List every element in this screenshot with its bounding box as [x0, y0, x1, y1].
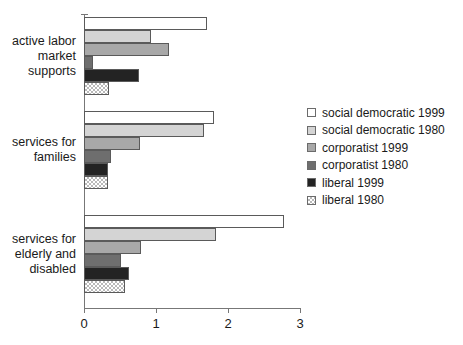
category-label-line: elderly and: [0, 247, 76, 262]
category-label-line: market: [0, 49, 76, 64]
legend-item[interactable]: liberal 1999: [307, 174, 457, 192]
legend-item-label: liberal 1999: [322, 176, 384, 190]
bar: [84, 267, 129, 280]
bar: [84, 228, 216, 241]
bar-group: [84, 111, 300, 189]
bar: [84, 56, 93, 69]
category-label: active labormarketsupports: [0, 34, 76, 79]
legend-item-label: liberal 1980: [322, 193, 384, 207]
x-axis-tick: [156, 308, 157, 313]
bar: [84, 30, 151, 43]
bar: [84, 69, 139, 82]
legend-item-label: corporatist 1999: [322, 141, 408, 155]
bar: [84, 241, 141, 254]
bar-group: [84, 17, 300, 95]
plot-area: [84, 14, 300, 308]
legend-item-label: corporatist 1980: [322, 158, 408, 172]
x-axis-tick-label: 2: [208, 316, 248, 331]
legend-swatch-icon: [307, 161, 316, 170]
x-axis-tick-label: 3: [280, 316, 320, 331]
category-label-line: services for: [0, 232, 76, 247]
x-axis-tick: [84, 308, 85, 313]
legend-item-label: social democratic 1980: [322, 123, 445, 137]
x-axis-tick: [300, 308, 301, 313]
legend-item[interactable]: corporatist 1980: [307, 157, 457, 175]
legend-swatch-icon: [307, 126, 316, 135]
bar: [84, 163, 108, 176]
legend-item-label: social democratic 1999: [322, 106, 445, 120]
legend-item[interactable]: corporatist 1999: [307, 139, 457, 157]
bar: [84, 150, 111, 163]
bar: [84, 82, 109, 95]
x-axis-tick-label: 1: [136, 316, 176, 331]
legend-swatch-icon: [307, 196, 316, 205]
bar: [84, 17, 207, 30]
bar-group: [84, 215, 300, 293]
bar-chart: 0123 active labormarketsupportsservices …: [0, 0, 463, 345]
bar: [84, 215, 284, 228]
category-label-line: services for: [0, 135, 76, 150]
x-axis-tick: [228, 308, 229, 313]
bar: [84, 254, 121, 267]
category-label: services forelderly anddisabled: [0, 232, 76, 277]
category-label: services forfamilies: [0, 135, 76, 165]
bar: [84, 176, 108, 189]
category-label-line: families: [0, 150, 76, 165]
legend-item[interactable]: social democratic 1980: [307, 122, 457, 140]
chart-legend: social democratic 1999social democratic …: [307, 104, 457, 209]
bar: [84, 43, 169, 56]
category-label-line: active labor: [0, 34, 76, 49]
bar: [84, 111, 214, 124]
x-axis-line: [84, 308, 301, 309]
category-label-line: disabled: [0, 262, 76, 277]
bar: [84, 280, 125, 293]
legend-item[interactable]: liberal 1980: [307, 192, 457, 210]
legend-item[interactable]: social democratic 1999: [307, 104, 457, 122]
category-label-line: supports: [0, 64, 76, 79]
x-axis-tick-label: 0: [64, 316, 104, 331]
legend-swatch-icon: [307, 108, 316, 117]
bar: [84, 137, 140, 150]
bar: [84, 124, 204, 137]
legend-swatch-icon: [307, 143, 316, 152]
legend-swatch-icon: [307, 178, 316, 187]
